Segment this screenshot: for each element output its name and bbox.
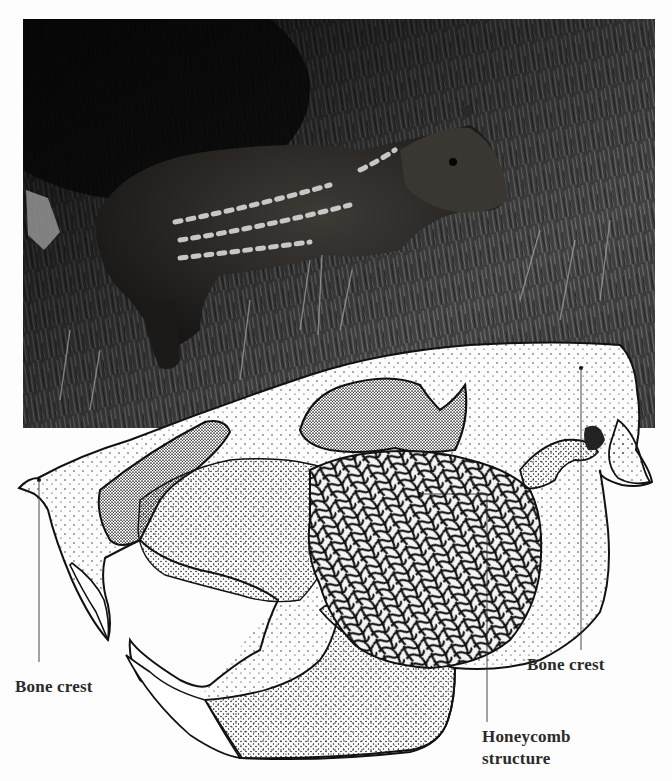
label-honeycomb-line2: structure <box>482 748 571 770</box>
label-honeycomb-structure: Honeycomb structure <box>482 726 571 770</box>
label-bone-crest-right: Bone crest <box>527 654 605 676</box>
label-bone-crest-left: Bone crest <box>15 676 93 698</box>
label-honeycomb-line1: Honeycomb <box>482 726 571 748</box>
